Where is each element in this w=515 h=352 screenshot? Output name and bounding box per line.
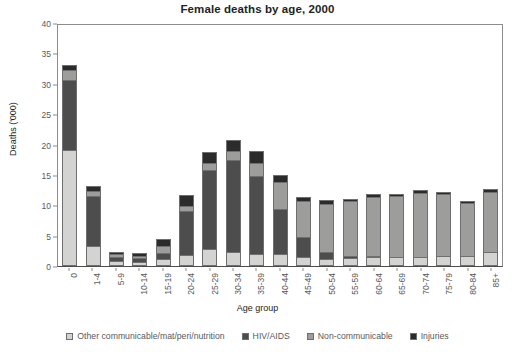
bar-segment	[203, 250, 216, 265]
chart-page: Female deaths by age, 2000 Deaths ('000)…	[0, 0, 515, 352]
bar-segment	[203, 153, 216, 164]
x-tick-mark	[68, 268, 69, 271]
stacked-bar[interactable]	[460, 201, 475, 266]
stacked-bar[interactable]	[389, 194, 404, 266]
stacked-bar[interactable]	[156, 239, 171, 266]
bar-slot	[81, 25, 104, 266]
bar-slot	[152, 25, 175, 266]
stacked-bar[interactable]	[483, 189, 498, 266]
bar-slot	[455, 25, 478, 266]
bar-slot	[222, 25, 245, 266]
bar-segment	[390, 258, 403, 265]
x-tick-mark	[420, 268, 421, 271]
bar-segment	[87, 197, 100, 247]
bar-segment	[203, 164, 216, 171]
bar-slot	[105, 25, 128, 266]
bar-segment	[274, 183, 287, 210]
bar-slot	[432, 25, 455, 266]
bar-segment	[484, 193, 497, 253]
x-tick-label: 15-19	[163, 273, 173, 295]
stacked-bar[interactable]	[436, 192, 451, 266]
legend-item[interactable]: Other communicable/mat/peri/nutrition	[66, 331, 224, 341]
x-tick-mark	[186, 268, 187, 271]
y-tick-label: 0	[46, 262, 51, 272]
bars-container	[58, 25, 502, 266]
y-tick-label: 15	[42, 171, 51, 181]
stacked-bar[interactable]	[249, 151, 264, 266]
x-tick-mark	[326, 268, 327, 271]
x-tick-label: 50-54	[327, 273, 337, 295]
bar-segment	[344, 259, 357, 265]
bar-segment	[133, 263, 146, 265]
bar-segment	[484, 253, 497, 265]
legend-item[interactable]: HIV/AIDS	[242, 331, 290, 341]
bar-slot	[479, 25, 502, 266]
x-tick-mark	[397, 268, 398, 271]
x-axis-label: Age group	[0, 303, 515, 313]
bar-segment	[250, 177, 263, 255]
stacked-bar[interactable]	[86, 186, 101, 266]
legend-item[interactable]: Non-communicable	[307, 331, 393, 341]
bar-segment	[63, 71, 76, 81]
y-axis: Deaths ('000) 0510152025303540	[0, 24, 57, 267]
bar-segment	[227, 152, 240, 160]
bar-slot	[245, 25, 268, 266]
bar-segment	[180, 212, 193, 256]
x-tick-mark	[467, 268, 468, 271]
bar-slot	[385, 25, 408, 266]
stacked-bar[interactable]	[132, 253, 147, 266]
x-tick-label: 80-84	[468, 273, 478, 295]
stacked-bar[interactable]	[62, 65, 77, 266]
legend-label: Injuries	[421, 331, 449, 341]
bar-slot	[339, 25, 362, 266]
bar-slot	[175, 25, 198, 266]
x-tick-label: 85+	[491, 273, 501, 287]
bar-segment	[250, 255, 263, 265]
x-tick-mark	[139, 268, 140, 271]
stacked-bar[interactable]	[226, 140, 241, 266]
x-tick-mark	[373, 268, 374, 271]
stacked-bar[interactable]	[109, 252, 124, 266]
legend-label: Non-communicable	[318, 331, 393, 341]
legend-label: Other communicable/mat/peri/nutrition	[77, 331, 224, 341]
x-tick-mark	[491, 268, 492, 271]
page-title: Female deaths by age, 2000	[0, 3, 515, 15]
bar-segment	[461, 204, 474, 257]
x-tick-label: 0	[69, 273, 79, 278]
bar-slot	[409, 25, 432, 266]
legend-item[interactable]: Injuries	[410, 331, 449, 341]
stacked-bar[interactable]	[202, 152, 217, 266]
x-tick-mark	[444, 268, 445, 271]
bar-slot	[58, 25, 81, 266]
x-tick-label: 60-64	[374, 273, 384, 295]
y-axis-label: Deaths ('000)	[8, 69, 18, 189]
bar-segment	[320, 260, 333, 265]
stacked-bar[interactable]	[319, 200, 334, 266]
bar-segment	[390, 197, 403, 258]
bar-segment	[297, 202, 310, 238]
stacked-bar[interactable]	[366, 194, 381, 266]
stacked-bar[interactable]	[273, 175, 288, 266]
x-tick-label: 75-79	[444, 273, 454, 295]
x-tick-label: 30-34	[233, 273, 243, 295]
bar-segment	[180, 196, 193, 207]
stacked-bar[interactable]	[343, 199, 358, 266]
legend-swatch-icon	[307, 333, 314, 340]
bar-segment	[367, 258, 380, 265]
stacked-bar[interactable]	[413, 190, 428, 266]
x-tick-label: 10-14	[139, 273, 149, 295]
bar-segment	[344, 202, 357, 256]
plot-area	[57, 24, 503, 267]
bar-segment	[250, 152, 263, 164]
legend-swatch-icon	[410, 333, 417, 340]
stacked-bar[interactable]	[179, 195, 194, 266]
stacked-bar[interactable]	[296, 197, 311, 266]
y-tick-label: 10	[42, 201, 51, 211]
legend-swatch-icon	[66, 333, 73, 340]
bar-segment	[227, 161, 240, 253]
x-tick-label: 40-44	[280, 273, 290, 295]
bar-slot	[362, 25, 385, 266]
x-tick-label: 55-59	[350, 273, 360, 295]
bar-segment	[63, 151, 76, 265]
x-tick-label: 5-9	[116, 273, 126, 285]
